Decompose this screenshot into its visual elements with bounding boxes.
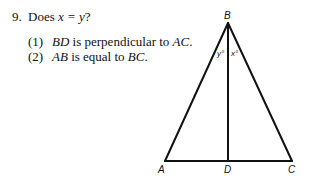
label-d: D — [224, 164, 231, 175]
angle-y: y° — [216, 49, 225, 58]
side-ab — [165, 23, 228, 161]
label-b: B — [224, 10, 231, 21]
side-bc — [228, 23, 292, 161]
label-a: A — [157, 164, 165, 175]
label-c: C — [288, 164, 296, 175]
angle-x: x° — [230, 49, 239, 58]
triangle-figure: B A D C y° x° — [0, 0, 321, 189]
